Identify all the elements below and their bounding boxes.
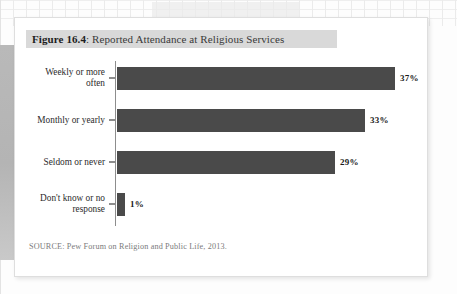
category-label: Don't know or no response bbox=[15, 193, 109, 215]
category-label-line: response bbox=[15, 204, 105, 215]
bar-container: 29% bbox=[117, 142, 429, 182]
axis-tick bbox=[109, 119, 116, 120]
axis-tick bbox=[109, 77, 116, 78]
source-note: SOURCE: Pew Forum on Religion and Public… bbox=[29, 242, 227, 251]
figure-title-text: : Reported Attendance at Religious Servi… bbox=[86, 33, 284, 45]
bar-chart-plot-area: Weekly or more often 37% Monthly or year… bbox=[15, 58, 429, 230]
chart-row: Don't know or no response 1% bbox=[15, 184, 429, 224]
axis-tick bbox=[109, 203, 116, 204]
bar-value-label: 37% bbox=[400, 73, 419, 83]
figure-card: Figure 16.4: Reported Attendance at Reli… bbox=[14, 17, 428, 277]
bar-monthly-or-yearly bbox=[117, 109, 365, 132]
category-label-line: often bbox=[15, 78, 105, 89]
bar-container: 37% bbox=[117, 58, 429, 98]
category-label-line: Weekly or more bbox=[15, 67, 105, 78]
chart-row: Monthly or yearly 33% bbox=[15, 100, 429, 140]
page-spine-shadow bbox=[0, 45, 14, 260]
figure-title-banner: Figure 16.4: Reported Attendance at Reli… bbox=[26, 30, 337, 48]
category-label-line: Don't know or no bbox=[15, 193, 105, 204]
bar-weekly-or-more-often bbox=[117, 67, 395, 90]
category-label-line: Monthly or yearly bbox=[15, 115, 105, 126]
bar-container: 1% bbox=[117, 184, 429, 224]
chart-row: Weekly or more often 37% bbox=[15, 58, 429, 98]
bar-value-label: 33% bbox=[370, 115, 389, 125]
category-label-line: Seldom or never bbox=[15, 157, 105, 168]
category-label: Seldom or never bbox=[15, 157, 109, 168]
bar-value-label: 1% bbox=[130, 199, 144, 209]
bar-dont-know-or-no-response bbox=[117, 193, 125, 216]
bar-value-label: 29% bbox=[340, 157, 359, 167]
category-label: Weekly or more often bbox=[15, 67, 109, 89]
category-label: Monthly or yearly bbox=[15, 115, 109, 126]
figure-number: Figure 16.4 bbox=[32, 33, 86, 45]
chart-row: Seldom or never 29% bbox=[15, 142, 429, 182]
bar-seldom-or-never bbox=[117, 151, 335, 174]
bar-container: 33% bbox=[117, 100, 429, 140]
axis-tick bbox=[109, 161, 116, 162]
